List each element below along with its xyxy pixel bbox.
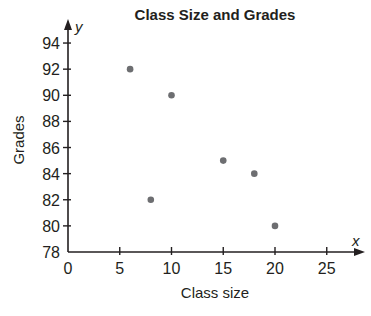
x-tick-label: 0 [64,260,73,277]
y-tick-label: 94 [42,35,60,52]
y-tick-label: 78 [42,244,60,261]
axes [64,19,365,256]
y-tick-label: 90 [42,87,60,104]
y-tick-label: 80 [42,218,60,235]
x-tick-label: 15 [214,260,232,277]
x-tick-label: 10 [163,260,181,277]
y-axis-label: Grades [10,115,27,164]
x-tick-label: 20 [266,260,284,277]
x-axis-variable: x [351,232,360,249]
x-axis-label: Class size [181,284,249,301]
scatter-chart: Class Size and Grades 788082848688909294… [0,0,371,316]
data-point [251,170,258,177]
x-tick-label: 25 [318,260,336,277]
y-tick-label: 86 [42,140,60,157]
y-axis-ticks: 788082848688909294 [42,35,71,261]
data-points [127,66,279,229]
x-tick-label: 5 [115,260,124,277]
data-point [168,92,175,99]
chart-title: Class Size and Grades [135,6,296,23]
data-point [220,157,227,164]
y-tick-label: 88 [42,113,60,130]
y-axis-variable: y [74,18,84,35]
y-tick-label: 92 [42,61,60,78]
data-point [148,196,155,203]
y-tick-label: 82 [42,192,60,209]
y-tick-label: 84 [42,166,60,183]
data-point [127,66,134,73]
data-point [272,223,279,230]
